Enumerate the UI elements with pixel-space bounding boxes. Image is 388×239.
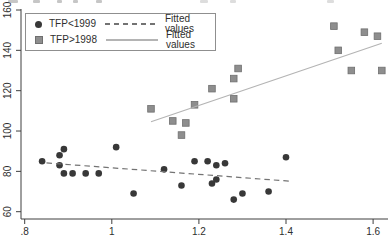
x-tick-label: 1.4: [279, 226, 293, 237]
scatter-point-square: [230, 75, 237, 82]
x-tick-label: 1.2: [192, 226, 206, 237]
y-tick-label: 60: [2, 206, 13, 218]
scatter-point-circle: [204, 158, 211, 165]
fitted-line-solid: [151, 43, 382, 121]
scatter-point-circle: [230, 196, 237, 203]
legend-row-tfp-post1998: TFP>1998 Fitted values: [35, 32, 211, 47]
scatter-point-circle: [222, 160, 229, 167]
legend-fit-label: Fitted values: [166, 30, 211, 50]
scatter-point-square: [209, 85, 216, 92]
scatter-point-circle: [130, 190, 137, 197]
scatter-point-circle: [39, 158, 46, 165]
scatter-point-square: [379, 67, 386, 74]
scatter-point-circle: [178, 182, 185, 189]
scatter-point-square: [331, 23, 338, 30]
circle-marker-icon: [35, 21, 42, 28]
scatter-point-square: [374, 33, 381, 40]
scatter-point-circle: [61, 170, 68, 177]
scatter-point-circle: [113, 144, 120, 151]
scatter-point-circle: [239, 190, 246, 197]
scatter-point-circle: [56, 162, 63, 169]
y-tick-label: 140: [2, 42, 13, 59]
y-tick-label: 80: [2, 165, 13, 177]
scatter-point-square: [348, 67, 355, 74]
scatter-point-square: [169, 118, 176, 125]
scatter-point-square: [335, 47, 342, 54]
x-tick-label: .8: [21, 226, 30, 237]
scatter-point-circle: [283, 154, 290, 161]
x-tick-label: 1.6: [366, 226, 380, 237]
legend-series-label: TFP<1999: [49, 19, 105, 29]
scatter-point-circle: [191, 158, 198, 165]
y-tick-label: 120: [2, 82, 13, 99]
dashed-line-sample-icon: [105, 23, 157, 25]
scatter-point-square: [178, 132, 185, 139]
scatter-point-square: [235, 65, 242, 72]
scatter-point-circle: [95, 170, 102, 177]
legend-series-label: TFP>1998: [50, 35, 106, 45]
y-tick-label: 100: [2, 122, 13, 139]
scatter-point-circle: [209, 180, 216, 187]
scatter-point-circle: [69, 170, 76, 177]
scatter-point-square: [148, 106, 155, 113]
scatter-point-square: [361, 29, 368, 36]
square-marker-icon: [35, 36, 43, 44]
scatter-point-circle: [265, 188, 272, 195]
x-tick-label: 1: [109, 226, 115, 237]
scatter-point-circle: [56, 152, 63, 159]
scatter-point-circle: [213, 162, 220, 169]
y-tick-label: 160: [2, 1, 13, 18]
legend: TFP<1999 Fitted values TFP>1998 Fitted v…: [25, 13, 216, 51]
scatter-point-square: [183, 120, 190, 127]
solid-line-sample-icon: [106, 39, 158, 41]
scatter-point-circle: [82, 170, 89, 177]
scatter-point-circle: [61, 146, 68, 153]
scatter-point-square: [230, 95, 237, 102]
